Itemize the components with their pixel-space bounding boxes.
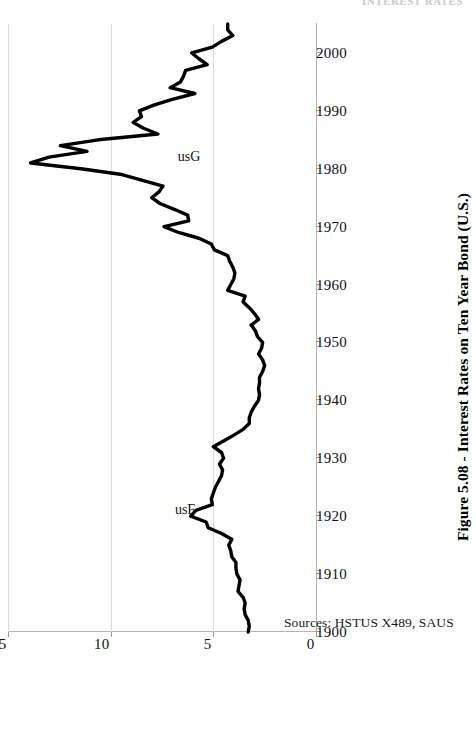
category-label-1930: 1930 [305,450,359,467]
plot-frame: usFusG 190019101920193019401950196019701… [0,0,345,690]
series-path-usF [191,325,265,632]
figure-chart: usFusG 190019101920193019401950196019701… [0,0,345,690]
value-label-10: 10 [63,636,109,653]
series-label-usG: usG [177,149,200,165]
category-label-1990: 1990 [305,102,359,119]
category-label-1970: 1970 [305,218,359,235]
category-label-2000: 2000 [305,45,359,62]
plot-area: usFusG [8,24,316,632]
value-tick-0 [316,632,317,637]
value-label-5: 5 [166,636,212,653]
category-label-1910: 1910 [305,566,359,583]
value-tick-5 [213,632,214,637]
value-label-0: 0 [269,636,315,653]
value-label-15: 15 [0,636,7,653]
source-note: Sources: HSTUS X489, SAUS [284,615,454,631]
category-label-1920: 1920 [305,508,359,525]
value-tick-15 [8,632,9,637]
category-label-1960: 1960 [305,276,359,293]
figure-caption: Figure 5.08 - Interest Rates on Ten Year… [452,0,474,734]
series-path-usG [31,24,259,325]
data-series-paths [8,24,316,632]
value-tick-10 [111,632,112,637]
category-label-1940: 1940 [305,392,359,409]
category-label-1980: 1980 [305,160,359,177]
category-label-1950: 1950 [305,334,359,351]
series-label-usF: usF [174,502,194,518]
figure-caption-text: Figure 5.08 - Interest Rates on Ten Year… [454,193,472,541]
